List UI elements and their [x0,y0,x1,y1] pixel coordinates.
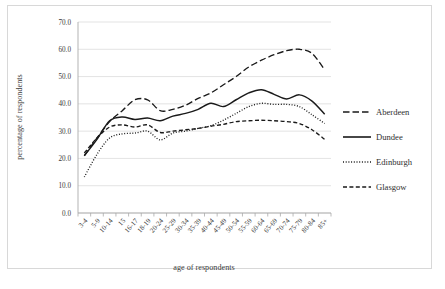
data-series [84,49,324,177]
y-axis-tick-label: 0.0 [62,210,71,218]
line-chart: 0.010.020.030.040.050.060.070.0 3-45-910… [0,0,445,289]
x-axis-title: age of respondents [173,263,234,272]
series-line-dundee [84,90,324,156]
y-axis-tick-label: 70.0 [58,19,71,27]
x-axis-tick-labels: 3-45-910-141516-1718-1920-2425-2930-3435… [77,217,330,235]
legend-label: Glasgow [376,182,407,192]
legend-label: Dundee [376,132,403,142]
x-axis-tick-label: 3-4 [77,217,90,230]
y-axis-tick-labels: 0.010.020.030.040.050.060.070.0 [58,19,71,218]
y-axis-tick-label: 60.0 [58,46,71,54]
series-line-glasgow [84,120,324,153]
legend-label: Edinburgh [376,157,413,167]
y-axis-title: percentage of respondents [15,74,24,159]
x-axis-tick-label: 10-14 [98,217,115,235]
y-axis-tick-label: 10.0 [58,182,71,190]
legend-item-edinburgh: Edinburgh [343,157,413,167]
y-axis-tick-label: 50.0 [58,73,71,81]
y-axis-tick-label: 30.0 [58,128,71,136]
series-line-aberdeen [84,49,324,156]
legend-item-glasgow: Glasgow [343,182,407,192]
legend-item-dundee: Dundee [343,132,403,142]
y-axis-tick-label: 20.0 [58,155,71,163]
x-axis-tick-marks [78,213,331,217]
x-axis-tick-label: 80-84 [300,217,317,235]
legend: AberdeenDundeeEdinburghGlasgow [343,107,413,192]
y-axis-tick-label: 40.0 [58,100,71,108]
x-axis-tick-label: 85+ [316,217,329,231]
chart-figure: 0.010.020.030.040.050.060.070.0 3-45-910… [0,0,445,289]
legend-item-aberdeen: Aberdeen [343,107,410,117]
legend-label: Aberdeen [376,107,410,117]
series-line-edinburgh [84,103,324,177]
